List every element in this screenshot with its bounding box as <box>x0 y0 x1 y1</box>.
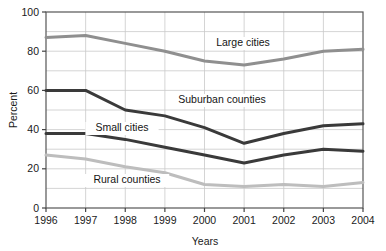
series-label-small-cities: Small cities <box>95 121 148 133</box>
y-tick-label: 40 <box>27 123 39 135</box>
y-axis-ticks: 020406080100 <box>21 6 46 214</box>
x-axis-title: Years <box>192 235 218 247</box>
x-tick-label: 2000 <box>193 214 217 226</box>
x-tick-label: 1997 <box>74 214 98 226</box>
chart-svg: 020406080100 199619971998199920002001200… <box>0 0 386 251</box>
x-tick-label: 1998 <box>114 214 138 226</box>
x-tick-label: 2003 <box>312 214 336 226</box>
series-label-suburban-counties: Suburban counties <box>178 93 266 105</box>
y-tick-label: 20 <box>27 162 39 174</box>
x-axis-ticks: 199619971998199920002001200220032004 <box>34 208 375 226</box>
y-tick-label: 80 <box>27 45 39 57</box>
y-tick-label: 0 <box>33 202 39 214</box>
x-tick-label: 2001 <box>232 214 256 226</box>
line-chart: 020406080100 199619971998199920002001200… <box>0 0 386 251</box>
x-tick-label: 1996 <box>34 214 58 226</box>
x-tick-label: 2004 <box>351 214 375 226</box>
series-label-rural-counties: Rural counties <box>93 173 160 185</box>
x-tick-label: 2002 <box>272 214 296 226</box>
series-label-large-cities: Large cities <box>216 36 270 48</box>
y-axis-title: Percent <box>7 92 19 128</box>
y-tick-label: 100 <box>21 6 39 18</box>
y-tick-label: 60 <box>27 84 39 96</box>
x-tick-label: 1999 <box>153 214 177 226</box>
